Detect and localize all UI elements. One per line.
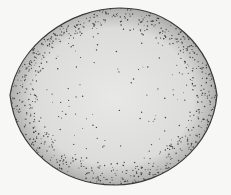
stipple-dot [170,159,171,160]
stipple-dot [146,95,147,96]
stipple-dot [138,19,140,21]
stipple-dot [30,138,31,139]
stipple-dot [88,172,89,173]
stipple-dot [100,24,101,25]
stipple-dot [208,61,209,62]
stipple-dot [156,20,157,21]
stipple-dot [46,132,47,133]
stipple-dot [129,29,131,31]
stipple-dot [111,170,112,171]
stipple-dot [44,39,46,41]
stipple-dot [139,118,140,119]
stipple-dot [34,94,36,96]
stipple-dot [46,89,47,90]
stipple-dot [13,118,14,119]
stipple-dot [76,96,77,97]
stipple-dot [207,124,208,125]
stipple-dot [202,112,203,113]
stipple-dot [20,58,21,59]
stipple-dot [49,146,50,147]
stipple-dot [201,85,202,86]
stipple-dot [76,66,77,67]
stipple-dot [63,33,64,34]
stipple-dot [168,31,169,32]
stipple-dot [120,183,122,185]
stipple-dot [125,17,126,18]
stipple-dot [209,73,210,74]
stipple-dot [61,35,62,36]
stipple-dot [122,171,123,172]
stipple-dot [103,145,104,146]
stipple-dot [120,181,121,182]
stipple-dot [125,13,126,14]
stipple-dot [162,45,163,46]
stipple-dot [99,10,101,12]
stipple-dot [199,109,200,110]
stipple-dot [42,55,43,56]
stipple-dot [80,160,81,161]
stipple-dot [152,174,153,175]
stipple-dot [90,181,91,182]
stipple-dot [65,114,67,116]
stipple-dot [172,43,174,45]
stipple-dot [169,38,170,39]
stipple-dot [29,64,30,65]
stipple-dot [165,149,167,151]
stipple-dot [44,132,45,133]
stipple-dot [66,19,67,20]
stipple-dot [17,121,18,122]
stipple-dot [52,43,53,44]
stipple-dot [33,42,34,43]
stipple-dot [12,97,13,98]
stipple-dot [50,27,51,28]
stipple-dot [98,21,99,22]
stipple-dot [59,167,60,168]
stipple-dot [215,94,216,95]
stipple-dot [156,169,157,170]
stipple-dot [185,136,186,137]
stipple-dot [97,138,98,139]
stipple-dot [105,22,106,23]
stipple-dot [63,28,64,29]
stipple-dot [34,116,35,117]
stipple-dot [43,57,44,58]
stipple-dot [69,17,70,18]
stipple-dot [51,93,52,94]
stipple-dot [124,16,125,17]
stipple-dot [191,130,192,131]
stipple-dot [93,36,94,37]
stipple-dot [206,56,207,57]
stipple-dot [17,105,18,106]
stipple-dot [183,36,185,38]
stipple-dot [151,24,153,26]
stipple-dot [57,162,58,163]
stipple-dot [85,14,86,15]
stipple-dot [36,96,37,97]
stipple-dot [24,74,25,75]
stipple-dot [118,71,119,72]
stipple-dot [133,175,135,177]
stipple-dot [187,140,188,141]
stipple-dot [186,50,187,51]
oval-body [10,8,217,185]
stipple-dot [13,99,14,100]
stipple-dot [91,170,92,171]
stipple-dot [127,10,128,11]
stipple-dot [75,51,76,52]
stipple-dot [192,46,193,47]
stipple-dot [178,136,180,138]
stipple-dot [16,119,17,120]
stipple-dot [26,88,27,89]
stipple-dot [26,75,27,76]
stipple-dot [160,27,161,28]
stipple-dot [175,28,176,29]
stipple-dot [197,61,198,62]
stipple-dot [184,61,185,62]
stipple-dot [179,72,180,73]
stipple-dot [30,105,31,106]
stipple-dot [36,53,37,54]
stipple-dot [172,148,173,149]
stipple-dot [178,41,179,42]
stipple-dot [193,115,194,116]
stipple-dot [86,18,87,19]
